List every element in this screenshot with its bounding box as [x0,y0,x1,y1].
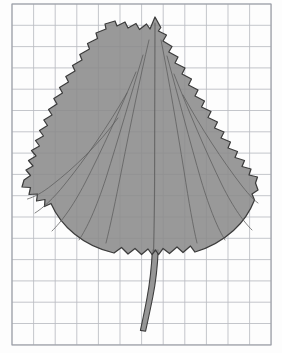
leaf-figure [0,0,282,353]
leaf-illustration [0,0,282,353]
